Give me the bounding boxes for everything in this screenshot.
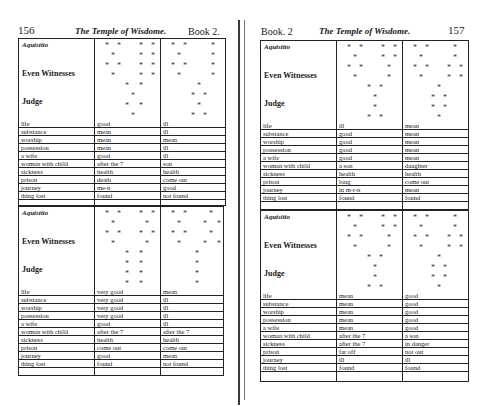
figure-point-icon: *: [365, 284, 373, 292]
figure-point-icon: *: [175, 72, 183, 80]
figure-point-icon: *: [411, 234, 419, 242]
figure-point-icon: *: [123, 270, 131, 278]
figure-point-icon: *: [109, 240, 117, 248]
figure-point-icon: *: [103, 210, 111, 218]
figure-1-judgement: good: [337, 130, 352, 137]
figure-point-icon: *: [149, 42, 157, 50]
figure-2-judgement: after the 7: [161, 328, 189, 335]
figure-point-icon: *: [451, 214, 459, 222]
figure-2-judgement: mean: [403, 186, 419, 193]
table-row: journeyillill: [261, 356, 468, 364]
page-number: 157: [448, 24, 465, 36]
figure-point-icon: *: [377, 114, 385, 122]
figure-point-icon: *: [109, 72, 117, 80]
figure-point-icon: *: [143, 220, 151, 228]
table-row: woman with childa sondaughter: [261, 162, 468, 170]
figure-point-icon: *: [445, 64, 453, 72]
figure-point-icon: *: [123, 280, 131, 288]
figure-2-judgement: good: [403, 324, 418, 331]
figure-point-icon: *: [345, 44, 353, 52]
figure-point-icon: *: [149, 210, 157, 218]
figure-1-judgement: mean: [337, 308, 353, 315]
figure-1-judgement: good: [337, 138, 352, 145]
figure-point-icon: *: [377, 84, 385, 92]
figure-2-judgement: mean: [161, 136, 177, 143]
figure-point-icon: *: [411, 214, 419, 222]
table-row: journeyme-ngood: [19, 184, 225, 192]
figure-2-judgement: ill: [161, 144, 168, 151]
figure-1-judgement: good: [95, 152, 110, 159]
figure-point-icon: *: [129, 92, 137, 100]
figure-point-icon: *: [379, 224, 387, 232]
right-page: Book. 2 The Temple of Wisdome. 157 Aquis…: [241, 0, 482, 406]
figure-point-icon: *: [169, 230, 177, 238]
table-row: possessiongoodmean: [261, 146, 468, 154]
figure-point-icon: *: [357, 234, 365, 242]
figure-point-icon: *: [137, 52, 145, 60]
figure-point-icon: *: [181, 62, 189, 70]
figure-label-even-witnesses: Even Witnesses: [22, 237, 75, 246]
table-row: a wifegoodill: [19, 152, 225, 160]
figure-2-judgement: ill: [161, 320, 168, 327]
figure-point-icon: *: [391, 224, 399, 232]
figure-point-icon: *: [189, 112, 197, 120]
table-row: prisoncome outcome out: [19, 344, 223, 352]
figure-point-icon: *: [115, 210, 123, 218]
figure-point-icon: *: [175, 240, 183, 248]
figure-point-icon: *: [451, 54, 459, 62]
figure-1-judgement: mean: [337, 292, 353, 299]
house-name: worship: [261, 138, 284, 145]
figure-point-icon: *: [195, 82, 203, 90]
figure-point-icon: *: [115, 62, 123, 70]
figure-point-icon: *: [351, 74, 359, 82]
figure-1-judgement: health: [95, 168, 113, 175]
figure-point-icon: *: [109, 52, 117, 60]
figure-point-icon: *: [209, 42, 217, 50]
figure-2-judgement: mean: [161, 288, 177, 295]
figure-point-icon: *: [441, 104, 449, 112]
figure-1-judgement: health: [95, 336, 113, 343]
figure-1-judgement: good: [95, 320, 110, 327]
figure-label-even-witnesses: Even Witnesses: [22, 69, 75, 78]
table-row: thing lostfoundfound: [261, 364, 468, 372]
left-page: 156 The Temple of Wisdome. Book 2. Aquis…: [0, 0, 240, 406]
figure-point-icon: *: [351, 54, 359, 62]
house-name: a wife: [19, 320, 37, 327]
table-row: possessionmeangood: [261, 316, 468, 324]
figure-point-icon: *: [137, 230, 145, 238]
house-name: worship: [261, 308, 284, 315]
figure-2-judgement: son: [161, 160, 172, 167]
figure-2-judgement: ill: [161, 296, 168, 303]
table-row: worshipvery goodill: [19, 304, 223, 312]
table-row: prisondeathcome out: [19, 176, 225, 184]
house-name: prison: [261, 178, 279, 185]
figure-point-icon: *: [137, 270, 145, 278]
figure-1-judgement: health: [337, 170, 355, 177]
figure-2-judgement: mean: [403, 154, 419, 161]
figure-point-icon: *: [445, 234, 453, 242]
table-row: a wifemeangood: [261, 324, 468, 332]
figure-2-judgement: health: [161, 168, 179, 175]
figure-2-judgement: health: [161, 336, 179, 343]
house-name: journey: [261, 356, 283, 363]
figure-1-judgement: found: [95, 360, 112, 367]
figure-point-icon: *: [193, 270, 201, 278]
figure-point-icon: *: [379, 44, 387, 52]
figure-1-judgement: in m-r-n: [337, 186, 360, 193]
figure-point-icon: *: [391, 214, 399, 222]
figure-1-judgement: after the 7: [337, 340, 365, 347]
figure-2-judgement: in danger: [403, 340, 429, 347]
figure-1-judgement: found: [337, 364, 354, 371]
figure-label-aquisitio: Aquisitio: [22, 209, 48, 217]
table-row: possessionvery goodill: [19, 312, 223, 320]
figure-point-icon: *: [351, 224, 359, 232]
page-number: 156: [18, 24, 35, 36]
figure-1-judgement: good: [95, 352, 110, 359]
figure-point-icon: *: [385, 244, 393, 252]
house-name: possession: [261, 316, 291, 323]
figure-point-icon: *: [457, 74, 465, 82]
house-name: prison: [261, 348, 279, 355]
figure-label-aquisitio: Aquisitio: [264, 43, 290, 51]
figure-point-icon: *: [445, 244, 453, 252]
figure-point-icon: *: [345, 214, 353, 222]
